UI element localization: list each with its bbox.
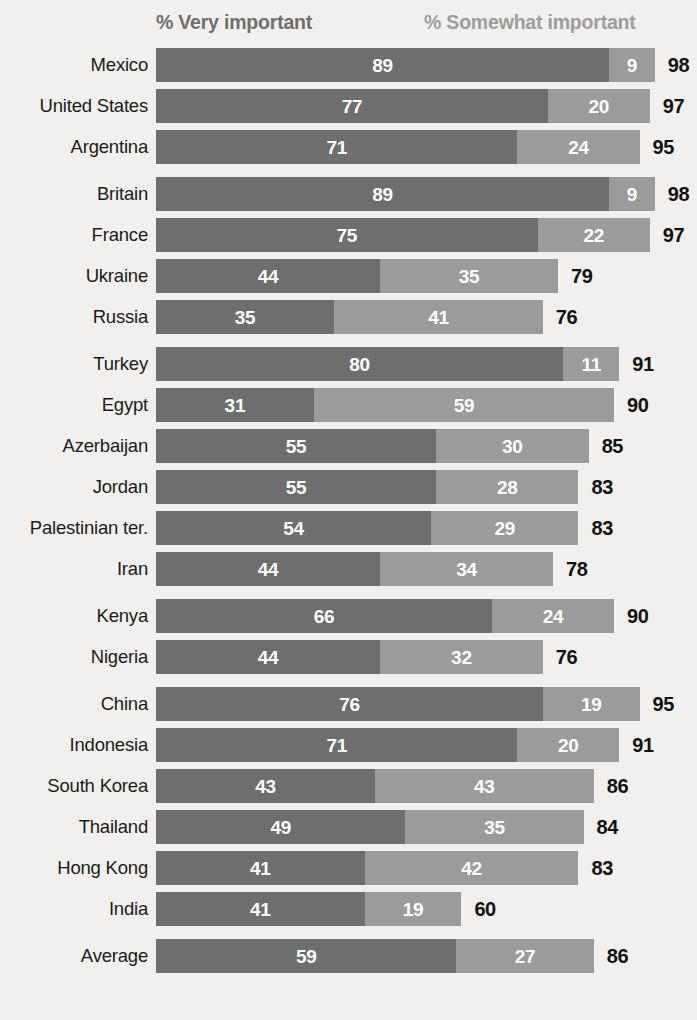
segment-value-very: 71 xyxy=(326,736,347,755)
bar-area: 662490 xyxy=(156,599,697,633)
stacked-bar: 899 xyxy=(156,177,655,211)
row-label: Mexico xyxy=(0,48,148,82)
bar-segment-very-important: 44 xyxy=(156,259,380,293)
stacked-bar: 7720 xyxy=(156,89,650,123)
bar-segment-somewhat-important: 27 xyxy=(456,939,593,973)
row-label: Average xyxy=(0,939,148,973)
bar-segment-somewhat-important: 11 xyxy=(563,347,619,381)
chart-row: China761995 xyxy=(0,687,697,721)
row-group: Kenya662490Nigeria443276 xyxy=(0,599,697,674)
bar-area: 411960 xyxy=(156,892,697,926)
segment-value-somewhat: 59 xyxy=(454,396,475,415)
row-total-value: 86 xyxy=(607,939,628,973)
row-label: Nigeria xyxy=(0,640,148,674)
segment-value-somewhat: 20 xyxy=(558,736,579,755)
bar-area: 761995 xyxy=(156,687,697,721)
stacked-bar: 4432 xyxy=(156,640,543,674)
chart-row: India411960 xyxy=(0,892,697,926)
bar-segment-somewhat-important: 59 xyxy=(314,388,614,422)
row-label: Azerbaijan xyxy=(0,429,148,463)
row-total-value: 76 xyxy=(556,640,577,674)
segment-value-somewhat: 41 xyxy=(428,308,449,327)
bar-area: 414283 xyxy=(156,851,697,885)
segment-value-somewhat: 35 xyxy=(459,267,480,286)
bar-segment-very-important: 43 xyxy=(156,769,375,803)
bar-segment-very-important: 71 xyxy=(156,130,517,164)
stacked-bar: 5927 xyxy=(156,939,594,973)
segment-value-somewhat: 42 xyxy=(461,859,482,878)
row-label: Britain xyxy=(0,177,148,211)
row-label: India xyxy=(0,892,148,926)
segment-value-somewhat: 22 xyxy=(583,226,604,245)
chart-row: Jordan552883 xyxy=(0,470,697,504)
segment-value-very: 44 xyxy=(258,648,279,667)
row-total-value: 85 xyxy=(602,429,623,463)
chart-row: Palestinian ter.542983 xyxy=(0,511,697,545)
bar-segment-somewhat-important: 22 xyxy=(538,218,650,252)
segment-value-somewhat: 9 xyxy=(627,56,637,75)
segment-value-somewhat: 29 xyxy=(494,519,515,538)
row-label: Ukraine xyxy=(0,259,148,293)
bar-segment-very-important: 44 xyxy=(156,640,380,674)
chart-row: Turkey801191 xyxy=(0,347,697,381)
segment-value-very: 75 xyxy=(337,226,358,245)
row-total-value: 83 xyxy=(591,511,612,545)
chart-row: Mexico89998 xyxy=(0,48,697,82)
bar-segment-very-important: 44 xyxy=(156,552,380,586)
bar-segment-very-important: 41 xyxy=(156,892,365,926)
segment-value-somewhat: 43 xyxy=(474,777,495,796)
chart-row: Russia354176 xyxy=(0,300,697,334)
segment-value-somewhat: 35 xyxy=(484,818,505,837)
stacked-bar: 3541 xyxy=(156,300,543,334)
stacked-bar: 4343 xyxy=(156,769,594,803)
row-total-value: 83 xyxy=(591,851,612,885)
stacked-bar: 4435 xyxy=(156,259,558,293)
segment-value-very: 43 xyxy=(255,777,276,796)
bar-segment-somewhat-important: 41 xyxy=(334,300,543,334)
bar-segment-very-important: 59 xyxy=(156,939,456,973)
chart-row: France752297 xyxy=(0,218,697,252)
stacked-bar: 4142 xyxy=(156,851,578,885)
bar-area: 752297 xyxy=(156,218,697,252)
bar-segment-somewhat-important: 32 xyxy=(380,640,543,674)
bar-segment-very-important: 66 xyxy=(156,599,492,633)
bar-segment-somewhat-important: 20 xyxy=(548,89,650,123)
bar-segment-very-important: 55 xyxy=(156,470,436,504)
bar-segment-somewhat-important: 30 xyxy=(436,429,589,463)
segment-value-somewhat: 32 xyxy=(451,648,472,667)
row-total-value: 79 xyxy=(571,259,592,293)
bar-segment-very-important: 31 xyxy=(156,388,314,422)
segment-value-very: 44 xyxy=(258,267,279,286)
bar-segment-somewhat-important: 42 xyxy=(365,851,579,885)
bar-segment-very-important: 75 xyxy=(156,218,538,252)
segment-value-somewhat: 34 xyxy=(456,560,477,579)
bar-area: 434386 xyxy=(156,769,697,803)
segment-value-very: 55 xyxy=(286,478,307,497)
row-label: Russia xyxy=(0,300,148,334)
chart-row: South Korea434386 xyxy=(0,769,697,803)
bar-segment-very-important: 49 xyxy=(156,810,405,844)
stacked-bar: 5429 xyxy=(156,511,578,545)
stacked-bar: 5530 xyxy=(156,429,589,463)
row-total-value: 76 xyxy=(556,300,577,334)
segment-value-very: 44 xyxy=(258,560,279,579)
bar-area: 443579 xyxy=(156,259,697,293)
row-label: Palestinian ter. xyxy=(0,511,148,545)
row-group: Average592786 xyxy=(0,939,697,973)
bar-area: 553085 xyxy=(156,429,697,463)
bar-segment-very-important: 76 xyxy=(156,687,543,721)
segment-value-very: 31 xyxy=(225,396,246,415)
bar-area: 89998 xyxy=(156,48,697,82)
chart-row: Azerbaijan553085 xyxy=(0,429,697,463)
row-total-value: 90 xyxy=(627,599,648,633)
stacked-bar: 7619 xyxy=(156,687,640,721)
stacked-bar: 4935 xyxy=(156,810,584,844)
segment-value-somewhat: 24 xyxy=(543,607,564,626)
bar-area: 712495 xyxy=(156,130,697,164)
bar-segment-very-important: 54 xyxy=(156,511,431,545)
row-label: Iran xyxy=(0,552,148,586)
chart-row: Hong Kong414283 xyxy=(0,851,697,885)
segment-value-very: 59 xyxy=(296,947,317,966)
stacked-bar: 7120 xyxy=(156,728,619,762)
segment-value-very: 49 xyxy=(270,818,291,837)
